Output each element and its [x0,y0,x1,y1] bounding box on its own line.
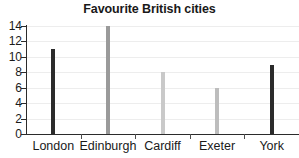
y-axis-tick-mark [21,26,26,27]
y-axis-tick-label: 2 [0,113,22,125]
gridline [26,41,299,42]
y-axis-tick-mark [21,41,26,42]
x-axis-tick-mark [244,134,245,139]
x-axis-line [26,134,299,135]
x-axis-tick-label: Edinburgh [79,139,136,153]
y-axis-tick-label: 0 [0,128,22,140]
x-axis-tick-mark [190,134,191,139]
y-axis-tick-label: 4 [0,97,22,109]
bar-chart: Favourite British cities 02468101214 Lon… [0,0,299,158]
y-axis-line [26,25,27,135]
y-axis-tick-mark [21,103,26,104]
gridline [26,26,299,27]
chart-title: Favourite British cities [0,2,299,16]
y-axis-tick-mark [21,88,26,89]
y-axis-tick-label: 12 [0,35,22,47]
y-axis-tick-mark [21,119,26,120]
y-axis-tick-label: 14 [0,20,22,32]
bar [51,49,55,134]
x-axis-tick-label: York [259,139,284,153]
y-axis-tick-mark [21,72,26,73]
y-axis-tick-mark [21,57,26,58]
y-axis-tick-label: 10 [0,51,22,63]
x-axis-tick-label: London [32,139,74,153]
x-axis-tick-label: Exeter [199,139,235,153]
bar [215,88,219,134]
bar [161,72,165,134]
y-axis-tick-label: 6 [0,82,22,94]
y-axis-tick-label: 8 [0,66,22,78]
y-axis-tick-mark [21,134,26,135]
gridline [26,57,299,58]
bar [270,65,274,134]
bar [106,26,110,134]
x-axis-tick-label: Cardiff [144,139,181,153]
